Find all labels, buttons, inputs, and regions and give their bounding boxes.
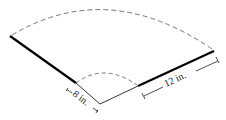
outer-dashed-arc xyxy=(12,10,212,49)
right-inner-radius xyxy=(100,86,138,104)
inner-dashed-arc xyxy=(76,73,137,85)
inner-radius-label: 8 in. xyxy=(71,88,92,108)
left-thick-edge xyxy=(10,36,76,83)
annular-sector-diagram: 8 in. 12 in. xyxy=(0,0,226,120)
dimension-8in: 8 in. xyxy=(66,88,98,113)
